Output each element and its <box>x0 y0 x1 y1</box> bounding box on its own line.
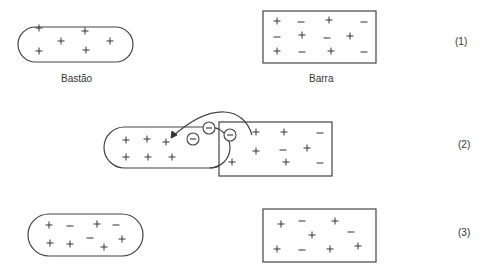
positive-charge-icon <box>82 28 89 35</box>
positive-charge-icon <box>274 246 281 253</box>
step-1-label: (1) <box>455 36 467 47</box>
step-2-label: (2) <box>458 139 470 150</box>
charge-diagram <box>0 0 490 274</box>
positive-charge-icon <box>107 38 114 45</box>
bar-label: Barra <box>309 73 333 84</box>
positive-charge-icon <box>328 48 335 55</box>
positive-charge-icon <box>309 232 316 239</box>
positive-charge-icon <box>326 17 333 24</box>
positive-charge-icon <box>355 243 362 250</box>
positive-charge-icon <box>274 18 281 25</box>
positive-charge-icon <box>36 48 43 55</box>
positive-charge-icon <box>36 25 43 32</box>
positive-charge-icon <box>67 241 74 248</box>
positive-charge-icon <box>299 32 306 39</box>
bar-shape <box>263 209 376 262</box>
positive-charge-icon <box>58 38 65 45</box>
positive-charge-icon <box>274 48 281 55</box>
positive-charge-icon <box>119 236 126 243</box>
positive-charge-icon <box>101 244 108 251</box>
positive-charge-icon <box>332 218 339 225</box>
positive-charge-icon <box>46 222 53 229</box>
step-3-label: (3) <box>458 227 470 238</box>
rod-shape <box>28 214 143 256</box>
positive-charge-icon <box>347 33 354 40</box>
positive-charge-icon <box>94 221 101 228</box>
positive-charge-icon <box>83 47 90 54</box>
rod-shape <box>18 27 133 62</box>
rod-label: Bastão <box>61 73 92 84</box>
positive-charge-icon <box>278 221 285 228</box>
bar-shape <box>219 122 332 176</box>
positive-charge-icon <box>327 246 334 253</box>
positive-charge-icon <box>47 240 54 247</box>
